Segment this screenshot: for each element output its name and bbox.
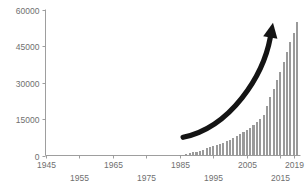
bar [246, 130, 248, 156]
bar [273, 89, 275, 156]
bar [283, 62, 285, 156]
x-tick-label: 2019 [285, 160, 304, 170]
bar-chart: 015000300004500060000 194519551965197519… [0, 0, 306, 181]
bar [289, 42, 291, 155]
bar [259, 119, 261, 156]
bar [212, 146, 214, 155]
y-tick-label: 30000 [16, 79, 40, 89]
bar [276, 80, 278, 155]
bar [195, 152, 197, 156]
bar [192, 152, 194, 155]
y-tick-labels: 015000300004500060000 [16, 6, 40, 162]
bar [222, 143, 224, 156]
bar [216, 145, 218, 155]
chart-container: 015000300004500060000 194519551965197519… [0, 0, 306, 181]
x-tick-label: 1975 [137, 173, 156, 182]
bar [293, 33, 295, 156]
bar [256, 122, 258, 156]
bar [219, 144, 221, 156]
y-axis-group: 015000300004500060000 [16, 6, 46, 162]
y-tick-label: 15000 [16, 115, 40, 125]
bar [199, 151, 201, 156]
bar [249, 128, 251, 156]
bar [239, 134, 241, 155]
bar [286, 52, 288, 155]
bar [209, 147, 211, 155]
y-tick-label: 45000 [16, 42, 40, 52]
y-tick-label: 60000 [16, 6, 40, 16]
growth-arrow-head [263, 23, 277, 39]
bar [226, 141, 228, 155]
bar [263, 115, 265, 156]
x-tick-label: 2005 [238, 160, 257, 170]
bar [189, 153, 191, 155]
x-tick-label: 1965 [104, 160, 123, 170]
bar [252, 125, 254, 156]
bar [202, 150, 204, 156]
bar [236, 136, 238, 155]
bar [279, 72, 281, 156]
x-tick-label: 1955 [70, 173, 89, 182]
bar [229, 140, 231, 156]
bar [185, 154, 187, 155]
bar [242, 132, 244, 155]
bar [266, 106, 268, 156]
bar [269, 97, 271, 155]
x-tick-label: 1985 [171, 160, 190, 170]
bar [182, 155, 184, 156]
x-tick-labels: 194519551965197519851995200520152019 [37, 160, 304, 182]
bar [232, 138, 234, 156]
x-tick-label: 2015 [271, 173, 290, 182]
bar [206, 148, 208, 155]
x-axis-group: 194519551965197519851995200520152019 [37, 156, 304, 182]
x-tick-label: 1995 [204, 173, 223, 182]
x-tick-label: 1945 [37, 160, 56, 170]
bar [296, 22, 298, 156]
